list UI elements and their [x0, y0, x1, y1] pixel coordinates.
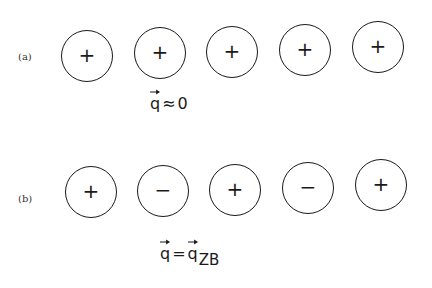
vector-arrow-icon: [160, 239, 170, 245]
ion-a-4: +: [279, 24, 331, 76]
plus-charge-icon: +: [370, 36, 387, 56]
plus-charge-icon: +: [224, 41, 241, 61]
ion-a-1: +: [61, 30, 113, 82]
row-a-label: (a): [18, 51, 32, 62]
zone-boundary-subscript: ZB: [199, 251, 220, 269]
plus-charge-icon: +: [227, 179, 244, 199]
ion-a-5: +: [352, 21, 404, 73]
minus-charge-icon: −: [300, 177, 317, 197]
vector-q-zb: q: [188, 238, 198, 263]
equation-a: q ≈ 0: [150, 88, 188, 113]
plus-charge-icon: +: [83, 181, 100, 201]
ion-b-4: −: [282, 162, 334, 214]
ion-a-3: +: [206, 26, 258, 78]
ion-b-1: +: [65, 166, 117, 218]
vector-q: q: [150, 88, 160, 113]
vector-arrow-icon: [150, 89, 160, 95]
ion-b-3: +: [209, 164, 261, 216]
plus-charge-icon: +: [79, 45, 96, 65]
equation-b-lhs: q: [160, 244, 170, 263]
ion-b-5: +: [355, 159, 407, 211]
equation-a-lhs: q: [150, 94, 160, 113]
plus-charge-icon: +: [152, 42, 169, 62]
equation-b: q = q ZB: [160, 238, 219, 263]
equals-operator: =: [172, 244, 185, 263]
ion-b-2: −: [137, 165, 189, 217]
plus-charge-icon: +: [373, 174, 390, 194]
minus-charge-icon: −: [155, 180, 172, 200]
phonon-wavevector-diagram: (a) + + + + + q ≈ 0 (b) + − + −: [0, 0, 432, 288]
equation-b-rhs: q: [188, 244, 198, 263]
ion-a-2: +: [134, 27, 186, 79]
plus-charge-icon: +: [297, 39, 314, 59]
approx-operator: ≈: [162, 94, 175, 113]
equation-a-rhs: 0: [178, 94, 188, 113]
vector-q: q: [160, 238, 170, 263]
vector-arrow-icon: [188, 239, 198, 245]
row-b-label: (b): [18, 193, 32, 204]
